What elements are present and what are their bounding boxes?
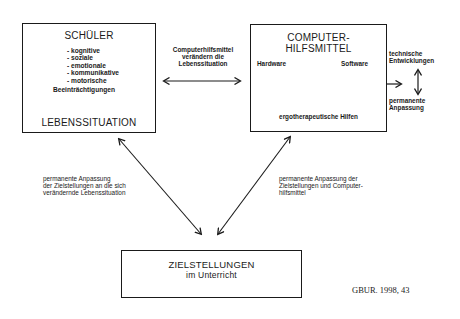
middle-label: Computerhilfsmittel verändern die Lebens…: [160, 46, 246, 68]
item-kognitive: - kognitive: [67, 47, 119, 54]
node-software: Software: [341, 60, 368, 67]
item-kommunikative: - kommunikative: [67, 69, 119, 76]
permanente-anpassung-label: permanente Anpassung: [389, 97, 425, 111]
technische-entwicklungen-label: technische Entwicklungen: [389, 50, 434, 64]
left-diagonal-label: permanente Anpassung der Zielstellungen …: [43, 175, 126, 197]
item-soziale: - soziale: [67, 54, 119, 61]
lebenssituation-label: LEBENSSITUATION: [22, 117, 156, 128]
goals-title: ZIELSTELLUNGEN im Unterricht: [121, 260, 302, 280]
left-diagonal-arrow: [119, 139, 201, 234]
item-motorische: - motorische: [67, 77, 119, 84]
node-ergo: ergotherapeutische Hilfen: [250, 113, 387, 120]
citation: GBUR. 1998, 43: [352, 286, 410, 296]
node-hardware: Hardware: [257, 60, 286, 67]
right-diagonal-label: permanente Anpassung der Zielstellungen …: [279, 175, 363, 197]
schueler-title: SCHÜLER: [22, 30, 156, 41]
item-emotionale: - emotionale: [67, 62, 119, 69]
schueler-items: - kognitive - soziale - emotionale - kom…: [67, 47, 119, 84]
computer-title: COMPUTER- HILFSMITTEL: [250, 32, 387, 54]
schueler-footer: Beeinträchtigungen: [53, 86, 115, 93]
